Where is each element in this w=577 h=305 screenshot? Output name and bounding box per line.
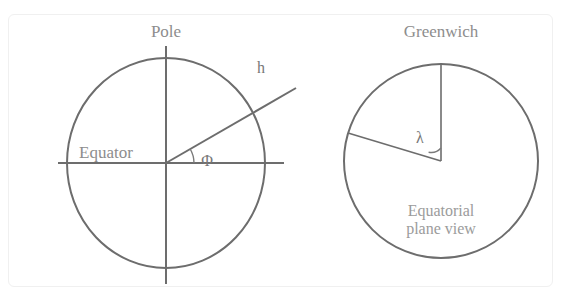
longitude-angle-arc bbox=[429, 148, 441, 152]
plane-view-label-line-2: plane view bbox=[406, 220, 476, 238]
latitude-angle-arc bbox=[190, 149, 194, 163]
equator-label: Equator bbox=[79, 143, 133, 162]
top-caption bbox=[30, 0, 530, 10]
figure-card: Pole Equator h Φ Greenwich λ Equatorial … bbox=[8, 14, 553, 287]
equatorial-plane-panel: Greenwich λ Equatorial plane view bbox=[344, 22, 538, 258]
meridian-section-panel: Pole Equator h Φ bbox=[58, 22, 296, 284]
longitude-radius-line bbox=[348, 133, 441, 161]
height-ray-line bbox=[166, 88, 296, 163]
longitude-symbol-label: λ bbox=[416, 129, 424, 146]
greenwich-label: Greenwich bbox=[404, 22, 479, 41]
pole-label: Pole bbox=[151, 22, 181, 41]
diagram-svg: Pole Equator h Φ Greenwich λ Equatorial … bbox=[9, 15, 553, 287]
height-label: h bbox=[257, 59, 265, 76]
latitude-symbol-label: Φ bbox=[201, 152, 213, 169]
plane-view-label-line-1: Equatorial bbox=[408, 202, 475, 220]
